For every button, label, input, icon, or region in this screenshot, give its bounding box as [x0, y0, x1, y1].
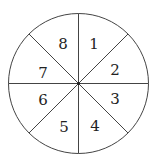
sector-label-2: 2	[110, 61, 120, 79]
sector-label-6: 6	[38, 91, 48, 109]
center-dot	[77, 82, 80, 85]
sector-label-5: 5	[59, 118, 69, 136]
sector-label-7: 7	[38, 64, 48, 82]
spinner-diagram: 1 2 3 4 5 6 7 8	[0, 0, 155, 166]
sector-label-4: 4	[90, 117, 100, 135]
sector-label-8: 8	[58, 35, 68, 53]
sector-label-1: 1	[89, 35, 99, 53]
sector-label-3: 3	[110, 90, 120, 108]
